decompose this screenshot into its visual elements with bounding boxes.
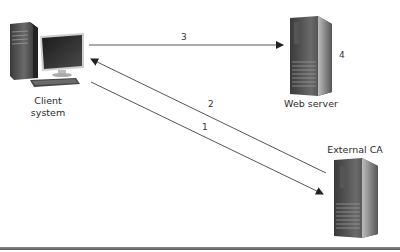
step-2-label: 2 bbox=[208, 99, 214, 109]
bottom-rule bbox=[0, 247, 400, 250]
client-system-label: Client system bbox=[31, 95, 65, 119]
step-4-label: 4 bbox=[339, 50, 345, 60]
external-ca-label: External CA bbox=[327, 144, 383, 156]
client-label-line1: Client bbox=[31, 95, 65, 107]
client-label-line2: system bbox=[31, 107, 65, 119]
step-3-label: 3 bbox=[181, 32, 187, 42]
diagram-canvas bbox=[0, 0, 400, 252]
web-server-label: Web server bbox=[284, 98, 338, 110]
external-ca-server-icon bbox=[334, 158, 378, 238]
client-computer-icon bbox=[10, 22, 84, 87]
step-1-label: 1 bbox=[202, 122, 208, 132]
web-server-icon bbox=[290, 16, 332, 96]
